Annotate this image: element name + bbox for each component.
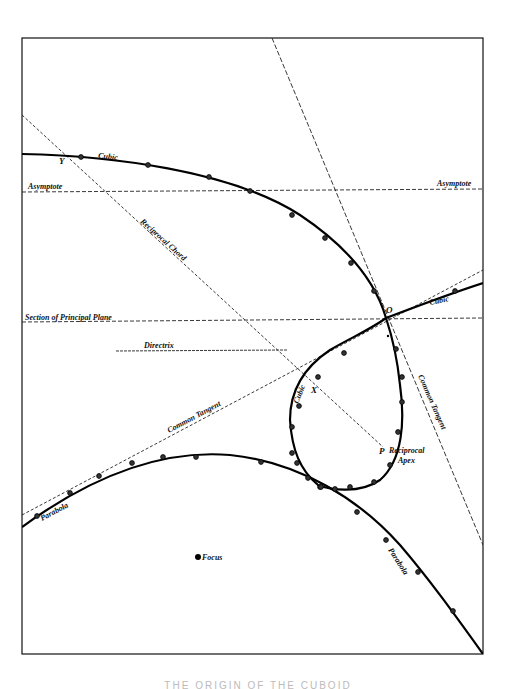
label-reciprocal: Reciprocal: [388, 446, 425, 455]
curve-point-marker: [342, 351, 347, 356]
curve-point-marker: [384, 538, 389, 543]
curve-point-marker: [146, 163, 151, 168]
label-x: X: [310, 385, 318, 395]
curve-point-marker: [323, 236, 328, 241]
conic-cubic-diagram: CubicYAsymptoteAsymptoteReciprocal Chord…: [0, 0, 516, 689]
label-cubic-top: Cubic: [98, 151, 119, 162]
curve-point-marker: [79, 155, 84, 160]
curve-point-marker: [130, 461, 135, 466]
label-o: O: [386, 305, 393, 315]
curve-point-marker: [248, 189, 253, 194]
curve-point-marker: [207, 175, 212, 180]
curve-point-marker: [290, 425, 295, 430]
curve-point-marker: [372, 480, 377, 485]
label-parabola-right: Parabola: [386, 546, 410, 576]
label-asymptote-left: Asymptote: [27, 182, 63, 191]
label-focus: Focus: [201, 553, 222, 562]
curves: [22, 154, 483, 654]
directrix-line: [116, 350, 287, 351]
label-principal-plane: Section of Principal Plane: [25, 313, 112, 322]
label-cubic-right: Cubic: [429, 294, 450, 307]
curve-point-marker: [372, 289, 377, 294]
parabola-curve: [22, 454, 483, 654]
label-y: Y: [59, 156, 66, 166]
curve-point-marker: [388, 463, 393, 468]
curve-point-marker: [316, 375, 321, 380]
label-common-tangent-left: Common Tangent: [166, 399, 223, 435]
curve-point-marker: [319, 485, 324, 490]
curve-point-marker: [295, 461, 300, 466]
curve-point-marker: [306, 476, 311, 481]
label-apex: Apex: [397, 456, 415, 465]
label-directrix: Directrix: [143, 341, 174, 350]
reciprocal-chord-line: [22, 115, 383, 447]
small-dot-marker: [387, 335, 389, 337]
curve-point-marker: [400, 375, 405, 380]
curve-point-marker: [394, 347, 399, 352]
curve-point-marker: [161, 455, 166, 460]
curve-point-marker: [194, 455, 199, 460]
curve-point-marker: [290, 213, 295, 218]
curve-point-marker: [290, 451, 295, 456]
curve-point-marker: [259, 460, 264, 465]
label-cubic-loop: Cubic: [292, 383, 308, 405]
curve-point-marker: [333, 487, 338, 492]
label-asymptote-right: Asymptote: [436, 179, 472, 188]
curve-point-marker: [348, 485, 353, 490]
curve-point-marker: [400, 400, 405, 405]
figure-caption: THE ORIGIN OF THE CUBOID: [0, 680, 516, 689]
curve-point-marker: [451, 609, 456, 614]
curve-point-marker: [97, 474, 102, 479]
curve-point-marker: [396, 430, 401, 435]
curve-point-marker: [349, 261, 354, 266]
label-reciprocal-chord: Reciprocal Chord: [138, 216, 189, 263]
curve-point-marker: [355, 510, 360, 515]
curve-points: [35, 155, 458, 614]
curve-point-marker: [68, 491, 73, 496]
curve-point-marker: [416, 570, 421, 575]
label-p: P: [379, 446, 385, 456]
labels: CubicYAsymptoteAsymptoteReciprocal Chord…: [25, 151, 472, 576]
focus-point-icon: [195, 554, 201, 560]
construction-lines: [22, 38, 483, 545]
curve-point-marker: [453, 289, 458, 294]
